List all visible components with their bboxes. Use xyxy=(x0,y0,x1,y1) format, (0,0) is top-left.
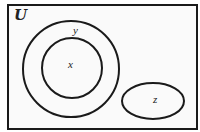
venn-diagram: U y x z xyxy=(0,0,200,132)
set-y-label: y xyxy=(72,24,78,36)
set-z-label: z xyxy=(152,93,158,105)
set-x-label: x xyxy=(67,58,73,70)
universal-set-label: U xyxy=(14,6,28,24)
